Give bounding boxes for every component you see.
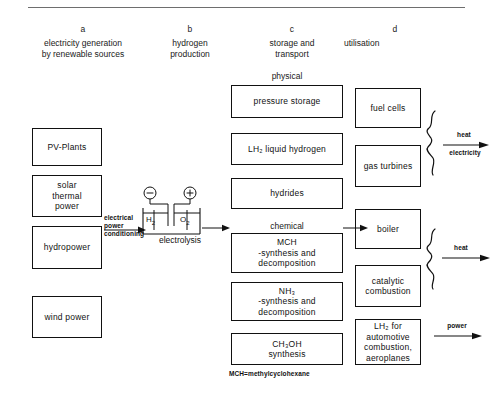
- box-fuel-cells[interactable]: fuel cells: [355, 88, 421, 128]
- box-nh3-synthesis-decomposition[interactable]: NH₃ -synthesis and decomposition: [231, 282, 343, 321]
- box-ch3oh-synthesis[interactable]: CH₃OH synthesis: [231, 333, 343, 365]
- box-lh2-liquid-hydrogen[interactable]: LH₂ liquid hydrogen: [231, 133, 343, 165]
- box-gas-turbines[interactable]: gas turbines: [355, 145, 421, 187]
- output-label-power: power: [437, 322, 477, 330]
- box-catalytic-combustion[interactable]: catalytic combustion: [355, 265, 421, 307]
- anode-gas-subscript: 2: [186, 220, 189, 226]
- output-label-heat-1: heat: [443, 131, 485, 139]
- arrow-storage-to-utilisation: [343, 222, 368, 234]
- box-mch-synthesis-decomposition[interactable]: MCH -synthesis and decomposition: [231, 233, 343, 273]
- box-lh2-automotive[interactable]: LH₂ for automotive combustion, aeroplane…: [355, 319, 421, 365]
- top-divider-rule: [28, 7, 465, 8]
- brace-heat-electricity: [424, 110, 440, 176]
- footnote-mch-definition: MCH=methylcyclohexane: [229, 370, 389, 377]
- diagram-canvas: a electricity generation by renewable so…: [0, 0, 496, 399]
- column-letter-a: a: [18, 24, 148, 34]
- section-label-physical: physical: [231, 71, 343, 81]
- column-caption-d: utilisation: [344, 38, 454, 49]
- column-caption-c: storage and transport: [237, 38, 347, 60]
- box-pressure-storage[interactable]: pressure storage: [231, 85, 343, 118]
- box-hydropower[interactable]: hydropower: [32, 226, 102, 269]
- electrolysis-caption: electrolysis: [140, 235, 220, 245]
- output-label-electricity: electricity: [441, 149, 489, 157]
- box-pv-plants[interactable]: PV-Plants: [32, 128, 102, 166]
- electrolysis-cathode-gas-label: H2: [146, 215, 155, 226]
- box-wind-power[interactable]: wind power: [32, 296, 102, 338]
- box-hydrides[interactable]: hydrides: [231, 178, 343, 209]
- arrow-power: [434, 331, 482, 341]
- brace-heat: [424, 228, 440, 290]
- arrow-electrolysis-to-storage: [202, 222, 230, 234]
- section-label-chemical: chemical: [231, 221, 343, 231]
- output-label-heat-2: heat: [443, 244, 479, 252]
- column-letter-b: b: [135, 24, 245, 34]
- column-letter-c: c: [237, 24, 347, 34]
- arrow-heat: [442, 253, 490, 263]
- column-caption-b: hydrogen production: [135, 38, 245, 60]
- cathode-gas-subscript: 2: [152, 220, 155, 226]
- column-letter-d: d: [340, 24, 450, 34]
- electrolysis-anode-gas-label: O2: [180, 215, 190, 226]
- box-solar-thermal-power[interactable]: solar thermal power: [32, 175, 102, 217]
